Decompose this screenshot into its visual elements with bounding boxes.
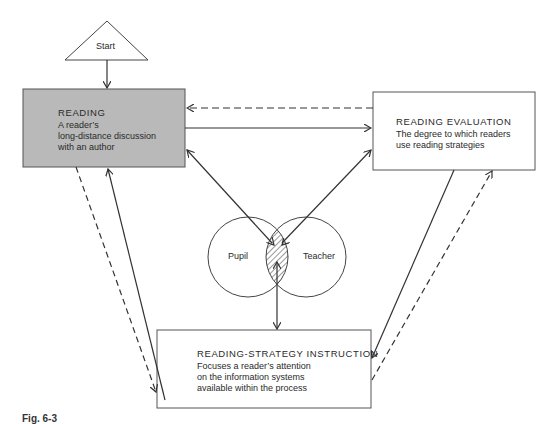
evaluation-text: READING EVALUATION The degree to which r… [396, 116, 512, 151]
figure-caption: Fig. 6-3 [22, 413, 57, 424]
evaluation-line: The degree to which readers [396, 129, 512, 140]
evaluation-line: use reading strategies [396, 140, 512, 151]
intersection-to-evaluation-arrow [282, 150, 371, 243]
instruction-title: READING-STRATEGY INSTRUCTION [197, 348, 378, 359]
start-label: Start [96, 41, 115, 52]
intersection-to-reading-arrow [187, 150, 272, 243]
instruction-to-reading-arrow [108, 169, 165, 400]
instruction-line: on the information systems [197, 372, 378, 383]
reading-line: long-distance discussion [58, 131, 156, 142]
reading-line: with an author [58, 142, 156, 153]
reading-title: READING [58, 107, 156, 118]
reading-text: READING A reader’s long-distance discuss… [58, 107, 156, 153]
evaluation-to-instruction-arrow [372, 170, 454, 358]
instruction-line: available within the process [197, 383, 378, 394]
reading-line: A reader’s [58, 120, 156, 131]
instruction-to-evaluation-dashed-arrow [372, 171, 492, 380]
pupil-label: Pupil [228, 251, 248, 262]
teacher-label: Teacher [303, 251, 335, 262]
evaluation-title: READING EVALUATION [396, 116, 512, 127]
instruction-line: Focuses a reader’s attention [197, 361, 378, 372]
instruction-text: READING-STRATEGY INSTRUCTION Focuses a r… [197, 348, 378, 394]
